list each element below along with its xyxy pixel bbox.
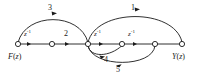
- arc-path-1: [88, 17, 182, 43]
- arrowhead-arc-1: [135, 8, 140, 12]
- node-3: [85, 41, 90, 46]
- arc-branch-1: [88, 8, 182, 43]
- branch-gain-label-n3-n4: z-1: [94, 31, 101, 38]
- branch-gain-label-arc-1: 1: [131, 4, 135, 12]
- input-node: [15, 41, 20, 46]
- node-5: [152, 41, 157, 46]
- output-node: [179, 41, 184, 46]
- signal-flow-graph-figure: z-1 2 z-1 z-1 3 1 4 5 F(z) Y(z): [0, 0, 199, 78]
- branch-gain-label-arc-5: 5: [116, 66, 120, 74]
- output-paren-close: ): [182, 52, 185, 61]
- output-signal-label: Y(z): [172, 53, 185, 61]
- arrowhead-branch-n3-n4: [99, 42, 103, 46]
- branch-gain-label-n2-n3: 2: [64, 30, 68, 38]
- branch-gain-label-n1-n2: z-1: [24, 31, 31, 38]
- node-2: [49, 41, 54, 46]
- arrowhead-branch-n4-n5: [133, 42, 137, 46]
- input-signal-label: F(z): [8, 53, 21, 61]
- arrowhead-branch-n1-n2: [27, 42, 31, 46]
- arrowhead-branch-n2-n3: [65, 42, 69, 46]
- input-paren-close: ): [19, 52, 22, 61]
- branch-gain-label-arc-3: 3: [48, 4, 52, 12]
- signal-flow-graph-canvas: [0, 0, 199, 78]
- node-4: [119, 41, 124, 46]
- arc-branch-5: [88, 46, 155, 68]
- arrowhead-arc-3: [52, 12, 57, 16]
- branch-gain-label-arc-4: 4: [104, 56, 108, 64]
- branch-gain-label-n4-n5: z-1: [128, 31, 135, 38]
- arc-path-4: [88, 46, 122, 55]
